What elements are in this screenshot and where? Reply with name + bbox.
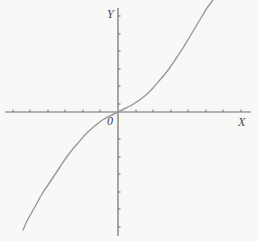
cubic-function-graph: Y X 0 bbox=[0, 0, 259, 241]
origin-label: 0 bbox=[107, 115, 113, 127]
plot-canvas bbox=[0, 0, 259, 241]
x-axis-label: X bbox=[238, 116, 245, 128]
y-axis-label: Y bbox=[107, 8, 114, 20]
